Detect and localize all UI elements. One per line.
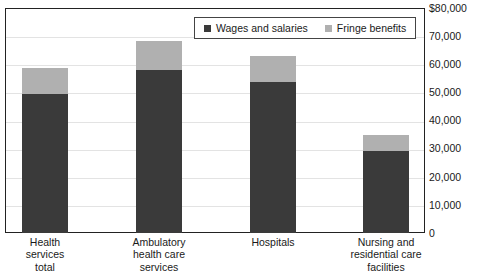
x-label-line: services xyxy=(0,248,99,260)
x-label-health-services-total: Health services total xyxy=(0,236,99,273)
x-label-line: total xyxy=(0,261,99,273)
y-tick-label-70000: 70,000 xyxy=(429,31,461,42)
x-label-line: health care xyxy=(105,248,213,260)
legend-item-wages-and-salaries[interactable]: Wages and salaries xyxy=(204,23,308,34)
chart-legend: Wages and salaries Fringe benefits xyxy=(194,17,416,39)
x-axis: Health services total Ambulatory health … xyxy=(5,236,425,279)
bar-segment-fringe-benefits[interactable] xyxy=(250,56,296,82)
y-tick-label-40000: 40,000 xyxy=(429,115,461,126)
y-tick-label-30000: 30,000 xyxy=(429,143,461,154)
bar-segment-wages-and-salaries[interactable] xyxy=(363,151,409,233)
y-tick-label-10000: 10,000 xyxy=(429,200,461,211)
stacked-bar-chart: Wages and salaries Fringe benefits $80,0… xyxy=(0,0,484,279)
x-label-nursing-and-residential-care-facilities: Nursing and residential care facilities xyxy=(332,236,440,273)
y-tick-label-20000: 20,000 xyxy=(429,172,461,183)
bar-segment-wages-and-salaries[interactable] xyxy=(22,94,68,233)
x-label-line: residential care xyxy=(332,248,440,260)
bar-segment-fringe-benefits[interactable] xyxy=(22,68,68,94)
y-tick-label-50000: 50,000 xyxy=(429,87,461,98)
x-label-line: facilities xyxy=(332,261,440,273)
bar-group-ambulatory-health-care-services[interactable] xyxy=(136,41,182,233)
bar-segment-fringe-benefits[interactable] xyxy=(363,135,409,151)
legend-label-fringe: Fringe benefits xyxy=(337,23,406,34)
y-tick-label-80000: $80,000 xyxy=(429,3,467,14)
legend-label-wages: Wages and salaries xyxy=(216,23,308,34)
x-label-line: Health xyxy=(0,236,99,248)
x-label-line: Ambulatory xyxy=(105,236,213,248)
bar-segment-fringe-benefits[interactable] xyxy=(136,41,182,70)
y-tick-label-60000: 60,000 xyxy=(429,59,461,70)
x-label-line: Hospitals xyxy=(219,236,327,248)
legend-item-fringe-benefits[interactable]: Fringe benefits xyxy=(325,23,406,34)
legend-swatch-fringe-icon xyxy=(325,25,332,32)
bar-segment-wages-and-salaries[interactable] xyxy=(250,82,296,233)
bars-layer xyxy=(5,8,425,233)
x-label-ambulatory-health-care-services: Ambulatory health care services xyxy=(105,236,213,273)
bar-segment-wages-and-salaries[interactable] xyxy=(136,70,182,233)
bar-group-health-services-total[interactable] xyxy=(22,68,68,233)
x-label-line: Nursing and xyxy=(332,236,440,248)
y-axis: $80,000 70,000 60,000 50,000 40,000 30,0… xyxy=(429,0,484,241)
x-label-line: services xyxy=(105,261,213,273)
legend-swatch-wages-icon xyxy=(204,25,211,32)
x-label-hospitals: Hospitals xyxy=(219,236,327,248)
bar-group-hospitals[interactable] xyxy=(250,56,296,233)
bar-group-nursing-and-residential-care-facilities[interactable] xyxy=(363,135,409,233)
